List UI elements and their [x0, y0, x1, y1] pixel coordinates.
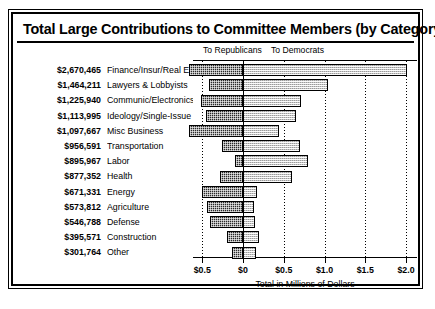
chart-row: $877,352Health	[13, 169, 418, 184]
axis-tick-label: $2.0	[386, 264, 426, 276]
chart-row: $1,225,940Communic/Electronics	[13, 93, 418, 108]
axis-tick-label: $1.0	[305, 264, 345, 276]
axis-tick	[406, 258, 407, 263]
bar-republicans	[222, 140, 243, 152]
bar-republicans	[210, 216, 243, 228]
bar-democrats	[243, 140, 300, 152]
chart-row: $671,331Energy	[13, 185, 418, 200]
bar-democrats	[243, 171, 292, 183]
chart-inner-frame: Total Large Contributions to Committee M…	[11, 12, 420, 286]
row-category-label: Agriculture	[107, 200, 193, 215]
axis-tick	[202, 258, 203, 263]
row-total-amount: $2,670,465	[27, 63, 101, 78]
bar-democrats	[243, 155, 308, 167]
row-total-amount: $1,097,667	[27, 124, 101, 139]
chart-row: $546,788Defense	[13, 215, 418, 230]
bar-republicans	[220, 171, 243, 183]
bar-republicans	[202, 186, 243, 198]
chart-row: $956,591Transportation	[13, 139, 418, 154]
axis-tick-label: $0	[223, 264, 263, 276]
bar-republicans	[209, 79, 243, 91]
row-category-label: Misc Business	[107, 124, 193, 139]
axis-tick-label: $0.5	[182, 264, 222, 276]
bar-democrats	[243, 110, 296, 122]
row-category-label: Labor	[107, 154, 193, 169]
x-axis-title: Total in Millions of Dollars	[193, 278, 417, 290]
row-total-amount: $877,352	[27, 169, 101, 184]
bar-republicans	[227, 231, 243, 243]
row-total-amount: $956,591	[27, 139, 101, 154]
bar-republicans	[232, 247, 243, 259]
x-axis: Total in Millions of Dollars $0.5$0$0.5$…	[13, 258, 418, 298]
axis-tick	[365, 258, 366, 263]
legend-label-republicans: To Republicans	[203, 43, 262, 57]
bar-republicans	[207, 201, 243, 213]
row-total-amount: $1,464,211	[27, 78, 101, 93]
bar-democrats	[243, 247, 256, 259]
bar-democrats	[243, 64, 407, 76]
bar-republicans	[189, 125, 243, 137]
bar-democrats	[243, 125, 279, 137]
chart-row: $1,464,211Lawyers & Lobbyists	[13, 78, 418, 93]
chart-row: $895,967Labor	[13, 154, 418, 169]
bar-democrats	[243, 79, 328, 91]
row-total-amount: $671,331	[27, 185, 101, 200]
chart-row: $2,670,465Finance/Insur/Real Est	[13, 63, 418, 78]
chart-row: $1,113,995Ideology/Single-Issue	[13, 109, 418, 124]
chart-row: $395,571Construction	[13, 230, 418, 245]
bar-republicans	[201, 95, 243, 107]
bar-democrats	[243, 186, 257, 198]
bar-democrats	[243, 216, 255, 228]
legend-label-democrats: To Democrats	[271, 43, 324, 57]
bar-republicans	[206, 110, 243, 122]
chart-row: $573,812Agriculture	[13, 200, 418, 215]
bar-democrats	[243, 231, 259, 243]
bar-democrats	[243, 95, 301, 107]
row-total-amount: $1,225,940	[27, 93, 101, 108]
axis-tick	[325, 258, 326, 263]
chart-title: Total Large Contributions to Committee M…	[23, 19, 410, 39]
row-category-label: Health	[107, 169, 193, 184]
bar-republicans	[189, 64, 243, 76]
chart-row: $1,097,667Misc Business	[13, 124, 418, 139]
row-category-label: Communic/Electronics	[107, 93, 193, 108]
axis-tick	[284, 258, 285, 263]
row-total-amount: $1,113,995	[27, 109, 101, 124]
bar-republicans	[235, 155, 243, 167]
row-total-amount: $546,788	[27, 215, 101, 230]
row-category-label: Ideology/Single-Issue	[107, 109, 193, 124]
axis-tick	[243, 258, 244, 263]
bar-democrats	[243, 201, 254, 213]
row-category-label: Transportation	[107, 139, 193, 154]
bar-rows: $2,670,465Finance/Insur/Real Est$1,464,2…	[13, 58, 418, 258]
row-total-amount: $573,812	[27, 200, 101, 215]
plot-area: $2,670,465Finance/Insur/Real Est$1,464,2…	[13, 58, 418, 258]
axis-tick-label: $0.5	[264, 264, 304, 276]
axis-tick-label: $1.5	[345, 264, 385, 276]
row-category-label: Finance/Insur/Real Est	[107, 63, 193, 78]
chart-frame: Total Large Contributions to Committee M…	[8, 9, 423, 289]
row-total-amount: $395,571	[27, 230, 101, 245]
legend: To Republicans To Democrats	[13, 43, 418, 57]
row-category-label: Energy	[107, 185, 193, 200]
row-category-label: Lawyers & Lobbyists	[107, 78, 193, 93]
row-category-label: Defense	[107, 215, 193, 230]
row-category-label: Construction	[107, 230, 193, 245]
row-total-amount: $895,967	[27, 154, 101, 169]
